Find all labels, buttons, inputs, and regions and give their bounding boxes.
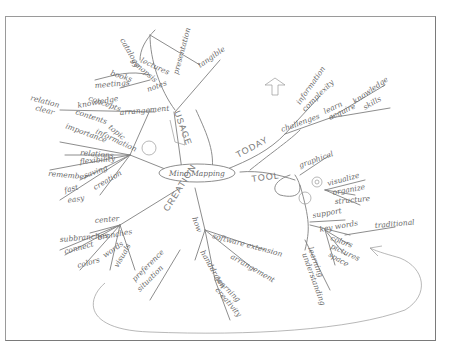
- svg-text:presentation: presentation: [171, 26, 192, 75]
- svg-text:key words: key words: [319, 218, 359, 234]
- svg-text:meetings: meetings: [94, 78, 130, 90]
- smiley-face-icon: [299, 192, 311, 204]
- svg-text:traditional: traditional: [374, 217, 415, 229]
- svg-text:importance: importance: [64, 121, 108, 144]
- svg-text:software extension: software extension: [211, 231, 283, 258]
- svg-text:challenges: challenges: [280, 111, 321, 133]
- today-label: TODAY: [234, 134, 270, 159]
- tool-label: TOOL: [251, 170, 280, 184]
- center-label: Mind Mapping: [168, 169, 225, 178]
- mind-map-diagram: Mind Mapping USAGE TODAY TOOL CREATION t…: [0, 0, 452, 354]
- svg-text:support: support: [312, 206, 343, 220]
- svg-text:colors: colors: [76, 255, 101, 270]
- arrow-up-icon: [265, 78, 285, 95]
- svg-text:flexibility: flexibility: [78, 154, 116, 166]
- svg-text:graphical: graphical: [298, 149, 335, 170]
- tool-words: graphical visualize organize structure s…: [298, 149, 416, 307]
- svg-text:arrangement: arrangement: [119, 104, 170, 117]
- usage-label: USAGE: [172, 109, 194, 147]
- svg-text:center: center: [94, 214, 120, 225]
- target-icon: [312, 177, 322, 187]
- smiley-face-icon: [142, 141, 156, 155]
- svg-text:easy: easy: [67, 193, 86, 205]
- svg-text:tangible: tangible: [196, 44, 227, 70]
- svg-text:arrangement: arrangement: [229, 252, 277, 285]
- svg-text:structure: structure: [334, 194, 371, 206]
- svg-text:contents: contents: [74, 107, 108, 126]
- today-words: challenges information complexity learn …: [280, 64, 391, 133]
